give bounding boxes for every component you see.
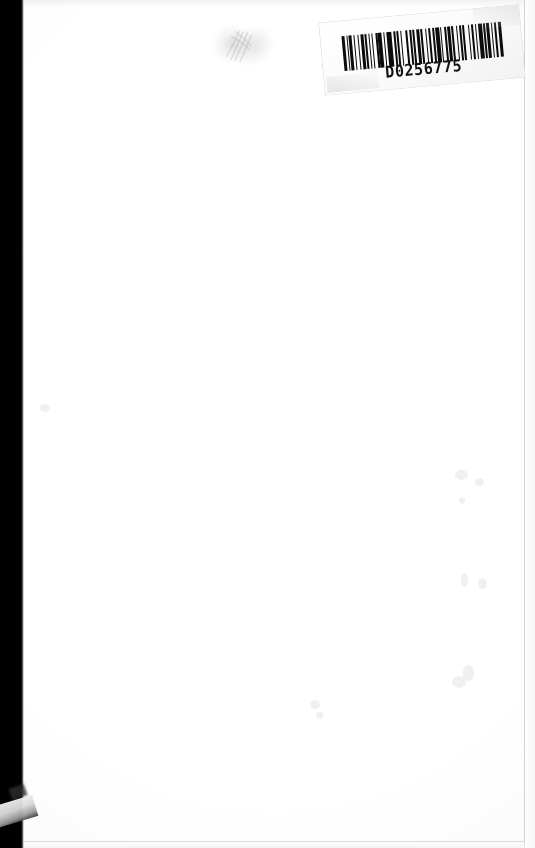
page-bottom-edge: [23, 841, 525, 842]
page-top-edge: [23, 0, 525, 8]
page-surface: [23, 0, 525, 848]
scanner-edge-shadow: [0, 0, 23, 848]
page-bottom-edge-soft: [23, 842, 525, 848]
scanned-page: D0256775: [0, 0, 535, 848]
scanner-edge-gradient: [21, 0, 24, 848]
page-right-edge-soft: [525, 0, 535, 848]
page-right-edge: [524, 0, 525, 848]
